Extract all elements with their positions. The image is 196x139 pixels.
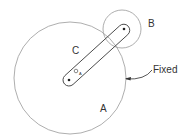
label-pivot-sub: A bbox=[79, 71, 82, 76]
label-b: B bbox=[148, 18, 155, 29]
label-fixed: Fixed bbox=[153, 64, 177, 75]
label-c: C bbox=[72, 45, 79, 56]
label-a: A bbox=[100, 103, 107, 114]
center-o-marker bbox=[74, 69, 78, 73]
gear-b bbox=[103, 10, 141, 48]
arm-pivot-dot bbox=[68, 79, 71, 82]
arm-end-dot bbox=[123, 28, 126, 31]
gear-a bbox=[14, 22, 126, 134]
epicyclic-gear-diagram: A B C Fixed A bbox=[0, 0, 196, 139]
